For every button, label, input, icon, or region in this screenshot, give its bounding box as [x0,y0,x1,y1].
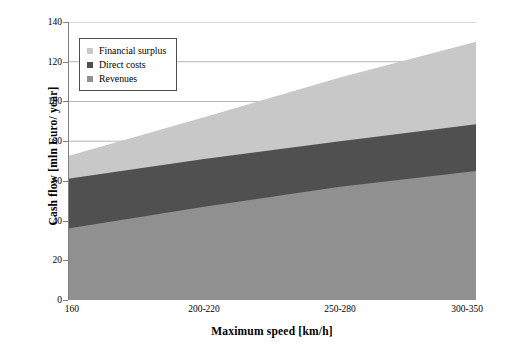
legend-swatch-icon [87,76,93,82]
x-axis-title: Maximum speed [km/h] [68,325,476,337]
chart-legend: Financial surplusDirect costsRevenues [79,38,177,91]
x-tick-label: 250-280 [324,303,356,315]
cash-flow-area-chart: Cash flow [mln Euro/ year] 0204060801001… [0,0,508,348]
y-tick-mark [63,300,68,301]
y-tick-label: 100 [28,96,62,106]
y-tick-label: 0 [28,295,62,305]
legend-label: Direct costs [99,59,146,70]
x-tick-label: 300-350 [451,303,483,315]
legend-item: Direct costs [87,58,166,71]
y-tick-label: 60 [28,176,62,186]
y-tick-label: 20 [28,255,62,265]
legend-label: Revenues [99,73,137,84]
y-tick-label: 120 [28,57,62,67]
x-tick-label: 160 [65,303,79,315]
y-axis-tick-labels: 020406080100120140 [26,22,62,300]
legend-item: Financial surplus [87,44,166,57]
x-tick-label: 200-220 [188,303,220,315]
legend-label: Financial surplus [99,45,166,56]
legend-item: Revenues [87,72,166,85]
x-axis-tick-labels: 160200-220250-280300-350 [68,303,476,319]
legend-swatch-icon [87,62,93,68]
y-tick-label: 80 [28,136,62,146]
legend-swatch-icon [87,48,93,54]
y-tick-label: 40 [28,216,62,226]
y-tick-label: 140 [28,17,62,27]
